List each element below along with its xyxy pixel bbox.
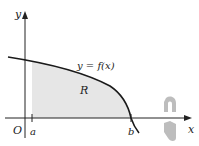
- region-under-curve-diagram: y x O a b y = f(x) R: [0, 0, 199, 146]
- x-axis-label: x: [188, 123, 195, 136]
- bound-a-label: a: [30, 126, 36, 137]
- y-axis-arrow-icon: [22, 11, 28, 19]
- curve-label: y = f(x): [76, 60, 115, 71]
- rotation-arrow-icon: [164, 97, 176, 141]
- region-label: R: [79, 84, 88, 97]
- x-axis-arrow-icon: [184, 115, 192, 121]
- origin-label: O: [13, 124, 22, 137]
- y-axis-label: y: [14, 8, 22, 21]
- bound-b-label: b: [128, 126, 134, 137]
